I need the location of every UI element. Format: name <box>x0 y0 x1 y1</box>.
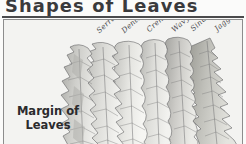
caption-margin-of-leaves: Margin of Leaves <box>12 105 84 132</box>
page-title: Shapes of Leaves <box>5 0 246 16</box>
title-bar: Shapes of Leaves <box>0 0 246 17</box>
title-divider <box>2 16 244 18</box>
caption-line-2: Leaves <box>12 119 84 133</box>
leaf-shapes-poster: Shapes of Leaves <box>0 0 246 144</box>
illustration-panel: Margin of Leaves Serrate Dentate Crenate… <box>3 19 243 144</box>
caption-line-1: Margin of <box>12 105 84 119</box>
